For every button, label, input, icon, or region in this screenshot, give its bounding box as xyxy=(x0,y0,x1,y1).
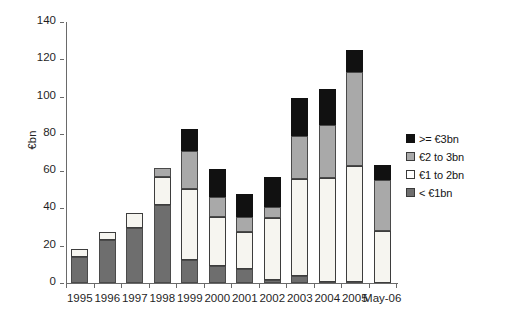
x-axis-line xyxy=(66,283,398,284)
y-axis-tick: 80 xyxy=(0,134,64,135)
bar-segment xyxy=(154,205,171,283)
bar-2005[interactable] xyxy=(346,22,363,283)
y-axis-tick-label: 40 xyxy=(43,200,56,212)
x-axis-tick-mark xyxy=(66,284,67,288)
x-axis-tick-mark xyxy=(286,284,287,288)
bar-segment xyxy=(264,207,281,218)
bar-segment xyxy=(99,240,116,283)
bar-segment xyxy=(154,168,171,176)
y-axis-tick-label: 0 xyxy=(50,275,56,287)
x-axis-tick-mark xyxy=(396,284,397,288)
bar-1998[interactable] xyxy=(154,22,171,283)
bar-segment xyxy=(209,169,226,197)
bar-segment xyxy=(291,98,308,136)
legend-item-label: €1 to 2bn xyxy=(419,169,464,181)
bar-segment xyxy=(346,166,363,283)
bar-segment xyxy=(346,50,363,72)
y-axis-tick-label: 60 xyxy=(43,163,56,175)
x-axis-tick-mark xyxy=(149,284,150,288)
bar-segment xyxy=(154,177,171,205)
y-axis-tick-label: 20 xyxy=(43,238,56,250)
y-axis-tick-mark xyxy=(60,283,64,284)
y-axis-tick-label: 120 xyxy=(37,51,56,63)
bar-segment xyxy=(181,151,198,189)
bar-segment xyxy=(71,257,88,283)
y-axis-tick: 20 xyxy=(0,246,64,247)
y-axis-tick-label: 140 xyxy=(37,14,56,26)
legend-item-label: €2 to 3bn xyxy=(419,151,464,163)
bar-2004[interactable] xyxy=(319,22,336,283)
bar-1997[interactable] xyxy=(126,22,143,283)
x-axis-tick-label: May-06 xyxy=(358,292,406,304)
bar-segment xyxy=(319,178,336,282)
legend-swatch-icon xyxy=(406,134,415,143)
x-axis-tick-mark xyxy=(121,284,122,288)
x-axis-tick-mark xyxy=(314,284,315,288)
bar-segment xyxy=(236,217,253,232)
y-axis-tick: 100 xyxy=(0,97,64,98)
legend-item-1to2[interactable]: €1 to 2bn xyxy=(406,167,516,182)
bar-segment xyxy=(209,217,226,266)
bar-segment xyxy=(236,194,253,216)
bar-segment xyxy=(264,280,281,283)
bar-1996[interactable] xyxy=(99,22,116,283)
x-axis-tick-mark xyxy=(341,284,342,288)
x-axis-tick-mark xyxy=(231,284,232,288)
bar-segment xyxy=(126,228,143,283)
bar-segment xyxy=(374,231,391,283)
bar-segment xyxy=(71,249,88,257)
bar-segment xyxy=(374,165,391,180)
bar-segment xyxy=(126,213,143,228)
bar-segment xyxy=(236,269,253,283)
y-axis-tick-mark xyxy=(60,59,64,60)
y-axis-tick: 40 xyxy=(0,208,64,209)
legend-item-gte3[interactable]: >= €3bn xyxy=(406,131,516,146)
legend-swatch-icon xyxy=(406,188,415,197)
x-axis-tick-mark xyxy=(176,284,177,288)
y-axis-tick: 0 xyxy=(0,283,64,284)
bar-may-06[interactable] xyxy=(374,22,391,283)
y-axis-tick-mark xyxy=(60,22,64,23)
legend-item-lt1[interactable]: < €1bn xyxy=(406,185,516,200)
stacked-bar-chart: €bn 020406080100120140 19951996199719981… xyxy=(0,0,518,328)
legend-item-2to3[interactable]: €2 to 3bn xyxy=(406,149,516,164)
bar-segment xyxy=(99,232,116,240)
bar-segment xyxy=(209,197,226,217)
bar-segment xyxy=(319,125,336,177)
bar-2000[interactable] xyxy=(209,22,226,283)
bar-segment xyxy=(209,266,226,283)
legend-item-label: < €1bn xyxy=(419,187,452,199)
y-axis-tick-mark xyxy=(60,171,64,172)
chart-legend: >= €3bn€2 to 3bn€1 to 2bn< €1bn xyxy=(406,131,516,203)
bar-2001[interactable] xyxy=(236,22,253,283)
bar-2002[interactable] xyxy=(264,22,281,283)
bar-1995[interactable] xyxy=(71,22,88,283)
legend-item-label: >= €3bn xyxy=(419,133,459,145)
bar-segment xyxy=(264,218,281,280)
y-axis-tick: 60 xyxy=(0,171,64,172)
y-axis-tick-mark xyxy=(60,134,64,135)
bar-2003[interactable] xyxy=(291,22,308,283)
bar-segment xyxy=(319,89,336,125)
bar-segment xyxy=(291,276,308,283)
legend-swatch-icon xyxy=(406,170,415,179)
bar-segment xyxy=(374,180,391,231)
bar-segment xyxy=(291,179,308,276)
x-axis-tick-mark xyxy=(204,284,205,288)
y-axis-title: €bn xyxy=(26,110,38,170)
bar-segment xyxy=(181,129,198,150)
y-axis-tick-label: 100 xyxy=(37,89,56,101)
y-axis-tick-mark xyxy=(60,246,64,247)
y-axis-tick: 120 xyxy=(0,59,64,60)
x-axis-tick-mark xyxy=(259,284,260,288)
y-axis-tick-label: 80 xyxy=(43,126,56,138)
bar-1999[interactable] xyxy=(181,22,198,283)
bar-segment xyxy=(346,72,363,165)
x-axis-tick-mark xyxy=(94,284,95,288)
y-axis-tick-mark xyxy=(60,208,64,209)
y-axis-tick-mark xyxy=(60,97,64,98)
bar-segment xyxy=(291,136,308,179)
plot-area xyxy=(66,22,396,283)
bar-segment xyxy=(236,232,253,269)
bar-segment xyxy=(264,177,281,207)
